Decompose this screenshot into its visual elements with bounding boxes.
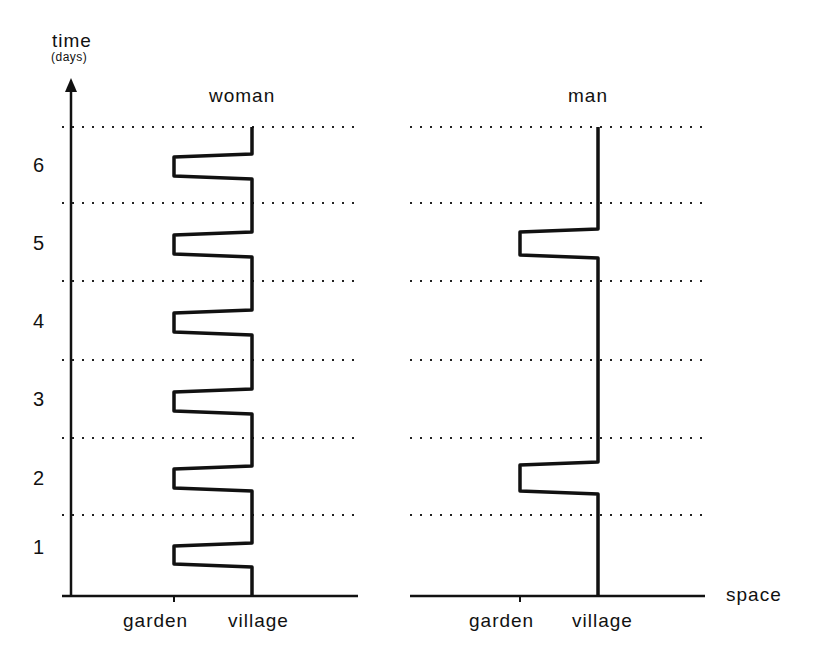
panel-title-woman: woman (209, 85, 275, 107)
woman-path (174, 127, 252, 596)
man-path (520, 127, 598, 596)
y-axis-arrow-icon (65, 78, 77, 92)
x-tick-garden-woman: garden (123, 610, 188, 632)
x-tick-garden-man: garden (469, 610, 534, 632)
x-tick-village-woman: village (228, 610, 289, 632)
panel-title-man: man (568, 85, 608, 107)
time-space-diagram (0, 0, 829, 658)
y-tick-4: 4 (33, 310, 44, 333)
y-tick-3: 3 (33, 388, 44, 411)
y-tick-2: 2 (33, 467, 44, 490)
x-axis-label: space (726, 584, 782, 606)
x-tick-village-man: village (572, 610, 633, 632)
y-axis-label: time (52, 30, 92, 52)
y-tick-1: 1 (33, 536, 44, 559)
day-gridlines (62, 127, 705, 515)
y-tick-5: 5 (33, 232, 44, 255)
y-axis-unit: (days) (51, 50, 87, 64)
y-tick-6: 6 (33, 154, 44, 177)
